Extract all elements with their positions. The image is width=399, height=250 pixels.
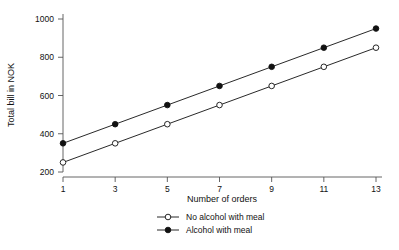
- y-tick-label: 1000: [35, 14, 54, 24]
- filled-circle-marker: [165, 227, 171, 233]
- open-circle-marker: [165, 121, 171, 127]
- x-tick-label: 3: [113, 184, 118, 194]
- filled-circle-marker: [373, 26, 379, 32]
- data-series-group: [60, 26, 379, 165]
- y-tick-label: 400: [40, 129, 54, 139]
- y-tick-label: 200: [40, 167, 54, 177]
- chart-container: 2004006008001000 135791113 Total bill in…: [0, 0, 399, 250]
- x-tick-label: 13: [371, 184, 381, 194]
- open-circle-marker: [269, 83, 275, 89]
- y-axis-title: Total bill in NOK: [6, 63, 16, 127]
- data-series: [60, 45, 379, 165]
- legend-item[interactable]: No alcohol with meal: [157, 212, 265, 222]
- open-circle-marker: [165, 214, 171, 220]
- filled-circle-marker: [165, 102, 171, 108]
- open-circle-marker: [373, 45, 379, 51]
- y-axis-ticks: 2004006008001000: [35, 14, 63, 177]
- filled-circle-marker: [112, 121, 118, 127]
- x-tick-label: 5: [165, 184, 170, 194]
- x-tick-label: 7: [217, 184, 222, 194]
- x-tick-label: 11: [319, 184, 328, 194]
- legend-label: No alcohol with meal: [186, 212, 265, 222]
- y-tick-label: 600: [40, 91, 54, 101]
- open-circle-marker: [60, 160, 66, 166]
- data-series: [60, 26, 379, 146]
- x-tick-label: 9: [269, 184, 274, 194]
- x-axis-title: Number of orders: [187, 194, 258, 204]
- open-circle-marker: [217, 102, 223, 108]
- axes: [63, 14, 382, 177]
- x-tick-label: 1: [61, 184, 66, 194]
- legend-item[interactable]: Alcohol with meal: [157, 225, 252, 235]
- filled-circle-marker: [217, 83, 223, 89]
- filled-circle-marker: [321, 45, 327, 51]
- open-circle-marker: [321, 64, 327, 70]
- filled-circle-marker: [269, 64, 275, 70]
- legend: No alcohol with mealAlcohol with meal: [157, 212, 265, 235]
- open-circle-marker: [112, 141, 118, 147]
- y-tick-label: 800: [40, 52, 54, 62]
- x-axis-ticks: 135791113: [61, 177, 381, 194]
- line-chart: 2004006008001000 135791113 Total bill in…: [0, 0, 399, 250]
- filled-circle-marker: [60, 141, 66, 147]
- legend-label: Alcohol with meal: [186, 225, 252, 235]
